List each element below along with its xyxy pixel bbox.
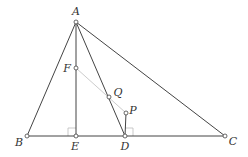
label-E: E [70, 140, 79, 153]
point-P [124, 111, 128, 115]
point-C [223, 134, 227, 138]
segment-PD [125, 113, 126, 136]
point-A [74, 20, 78, 24]
label-Q: Q [113, 86, 122, 99]
segment-AB [27, 22, 76, 136]
label-D: D [120, 140, 130, 153]
point-Q [107, 95, 111, 99]
label-F: F [62, 62, 71, 75]
label-C: C [229, 135, 238, 148]
point-D [123, 134, 127, 138]
segment-AD [76, 22, 125, 136]
point-B [25, 134, 29, 138]
label-A: A [71, 5, 80, 18]
geometry-diagram: A B C D E F Q P [0, 0, 248, 157]
segment-AC [76, 22, 225, 136]
point-E [74, 134, 78, 138]
point-F [74, 66, 78, 70]
label-P: P [128, 104, 137, 117]
label-B: B [14, 136, 23, 149]
